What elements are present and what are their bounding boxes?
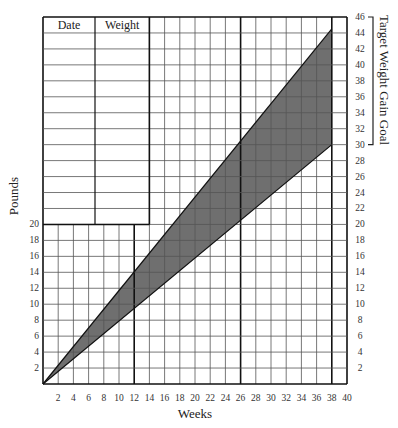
x-tick-label: 4 [71,393,76,403]
right-y-tick-label: 8 [358,315,363,325]
right-y-tick-label: 10 [355,299,365,309]
right-y-tick-label: 16 [355,251,365,261]
x-tick-label: 10 [114,393,124,403]
right-y-tick-label: 6 [358,331,363,341]
right-y-tick-label: 30 [355,140,365,150]
x-tick-label: 26 [236,393,246,403]
chart-grid [43,17,347,384]
right-y-tick-label: 2 [358,363,363,373]
left-y-tick-label: 6 [34,331,39,341]
right-y-tick-label: 28 [355,156,365,166]
right-y-tick-label: 46 [355,12,365,22]
y-axis-title: Pounds [6,177,21,215]
right-y-tick-label: 24 [355,188,365,198]
right-y-tick-label: 18 [355,235,365,245]
x-tick-label: 28 [251,393,261,403]
x-tick-label: 40 [342,393,352,403]
right-y-tick-label: 40 [355,60,365,70]
x-tick-label: 24 [221,393,231,403]
right-y-tick-label: 4 [358,347,363,357]
x-tick-label: 38 [327,393,337,403]
right-y-tick-label: 38 [355,76,365,86]
x-tick-label: 16 [160,393,170,403]
x-tick-label: 30 [266,393,276,403]
left-y-tick-label: 18 [30,235,40,245]
x-tick-label: 14 [145,393,155,403]
left-y-tick-label: 8 [34,315,39,325]
right-y-tick-label: 44 [355,28,365,38]
secondary-y-axis-title: Target Weight Gain Goal [377,15,392,145]
right-y-axis-ticks: 2468101214161820222426283032343638404244… [355,12,365,373]
right-y-tick-label: 12 [355,283,365,293]
left-y-tick-label: 10 [30,299,40,309]
x-tick-label: 18 [175,393,185,403]
x-tick-label: 32 [281,393,291,403]
right-y-tick-label: 20 [355,219,365,229]
left-y-tick-label: 2 [34,363,39,373]
target-goal-bracket [368,17,373,145]
x-tick-label: 34 [297,393,307,403]
right-y-tick-label: 36 [355,92,365,102]
weight-gain-chart: DateWeight 24681012141618202224262830323… [0,0,398,428]
x-tick-label: 36 [312,393,322,403]
x-tick-label: 6 [86,393,91,403]
weight-log-table: DateWeight [43,17,149,224]
table-header-date: Date [58,18,81,32]
x-tick-label: 20 [190,393,200,403]
right-y-tick-label: 26 [355,172,365,182]
table-header-weight: Weight [105,18,140,32]
left-y-tick-label: 14 [30,267,40,277]
x-tick-label: 8 [101,393,106,403]
right-y-tick-label: 34 [355,108,365,118]
left-y-tick-label: 20 [30,219,40,229]
x-axis-ticks: 246810121416182022242628303234363840 [56,393,352,403]
right-y-tick-label: 14 [355,267,365,277]
right-y-tick-label: 32 [355,124,365,134]
right-y-tick-label: 42 [355,44,365,54]
x-tick-label: 12 [129,393,139,403]
x-tick-label: 22 [205,393,215,403]
right-y-tick-label: 22 [355,203,365,213]
x-tick-label: 2 [56,393,61,403]
x-axis-title: Weeks [178,406,212,421]
left-y-axis-ticks: 2468101214161820 [30,219,40,373]
bound-lines [43,29,332,384]
left-y-tick-label: 12 [30,283,40,293]
left-y-tick-label: 16 [30,251,40,261]
lower-bound-line [43,145,332,384]
upper-bound-line [43,29,332,384]
left-y-tick-label: 4 [34,347,39,357]
